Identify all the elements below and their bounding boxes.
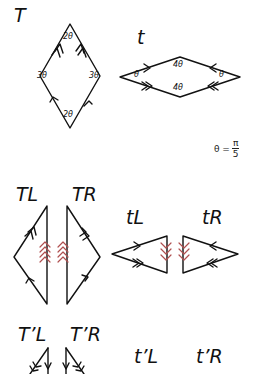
half-thick-TpL <box>30 348 51 374</box>
angle-t-left: θ <box>134 70 139 79</box>
label-tprimeR: t’R <box>196 345 223 367</box>
fraction: π 5 <box>232 138 239 159</box>
angle-t-top: 4θ <box>173 60 183 69</box>
angle-T-bottom: 2θ <box>63 110 73 119</box>
denominator: 5 <box>233 149 239 159</box>
half-thick-TR <box>67 206 100 304</box>
penrose-rhombus-diagram <box>0 0 259 374</box>
label-TprimeR: T’R <box>70 323 101 345</box>
half-thin-tR <box>183 236 238 273</box>
numerator: π <box>232 138 239 149</box>
label-TprimeL: T’L <box>18 323 46 345</box>
angle-T-right: 3θ <box>89 71 99 80</box>
label-tprimeL: t’L <box>134 345 158 367</box>
label-T: T <box>14 4 26 26</box>
label-TR: TR <box>72 183 97 205</box>
label-TL: TL <box>16 183 38 205</box>
angle-T-left: 3θ <box>37 71 47 80</box>
angle-t-right: θ <box>219 70 224 79</box>
half-thick-TpR <box>63 348 84 374</box>
angle-T-top: 2θ <box>63 32 73 41</box>
half-thin-tL <box>112 236 167 273</box>
theta-definition: θ = π 5 <box>214 138 239 159</box>
label-tL: tL <box>126 206 144 228</box>
label-t: t <box>137 26 144 48</box>
angle-t-bottom: 4θ <box>173 83 183 92</box>
label-tR: tR <box>202 206 223 228</box>
formula-lhs: θ = <box>214 144 230 154</box>
